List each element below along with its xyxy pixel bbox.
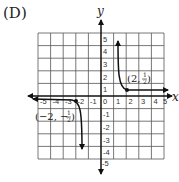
svg-text:): )	[147, 73, 151, 84]
svg-text:(−2, −: (−2, −	[35, 111, 68, 122]
annotation-neg2-neghalf: (−2, − 1 2 )	[35, 109, 75, 123]
coordinate-plane: x y -5 -4 -3 -2 -1 0 1 2 3 4 5 5 4 3 2 1…	[0, 0, 179, 182]
svg-text:-1: -1	[90, 97, 97, 106]
svg-text:3: 3	[141, 97, 145, 106]
svg-text:5: 5	[163, 97, 167, 106]
svg-text:-3: -3	[65, 97, 72, 106]
curve-lower-left	[33, 99, 82, 149]
svg-text:-5: -5	[102, 159, 109, 168]
svg-text:-3: -3	[103, 136, 110, 145]
svg-text:4: 4	[103, 47, 107, 56]
svg-text:2: 2	[129, 97, 133, 106]
x-tick-labels: -5 -4 -3 -2 -1 0 1 2 3 4 5	[40, 97, 167, 106]
svg-text:5: 5	[103, 35, 107, 44]
svg-text:-1: -1	[103, 110, 110, 119]
svg-text:1: 1	[116, 97, 120, 106]
svg-text:-4: -4	[53, 97, 60, 106]
svg-text:-2: -2	[103, 123, 110, 132]
svg-text:): )	[71, 111, 75, 122]
svg-text:-4: -4	[103, 148, 110, 157]
svg-text:(2,: (2,	[127, 73, 140, 84]
point-2-half	[125, 88, 129, 92]
svg-text:4: 4	[154, 97, 158, 106]
svg-text:1: 1	[103, 85, 107, 94]
svg-text:0: 0	[103, 97, 107, 106]
svg-text:3: 3	[103, 60, 107, 69]
point-neg2-neghalf	[74, 99, 78, 103]
svg-text:-5: -5	[40, 97, 47, 106]
y-axis-label: y	[96, 4, 104, 18]
annotation-2-half: (2, 1 2 )	[127, 71, 151, 85]
svg-text:2: 2	[103, 73, 107, 82]
x-axis-label: x	[172, 90, 179, 104]
